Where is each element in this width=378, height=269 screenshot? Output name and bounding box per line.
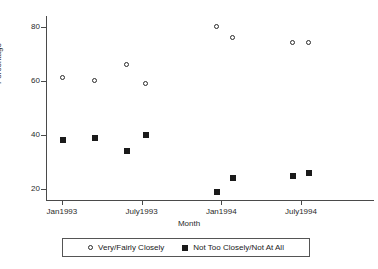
x-tick [62, 200, 63, 205]
data-point [124, 148, 130, 154]
y-tick-label: 20 [0, 185, 40, 193]
open-circle-icon [88, 245, 93, 250]
data-point [124, 62, 129, 67]
data-point [60, 75, 65, 80]
filled-square-icon [182, 245, 188, 251]
data-point [230, 175, 236, 181]
data-point [290, 40, 295, 45]
chart-legend: Very/Fairly Closely Not Too Closely/Not … [62, 238, 310, 257]
legend-label: Not Too Closely/Not At All [193, 243, 284, 252]
y-tick-label: 80 [0, 23, 40, 31]
data-point [214, 189, 220, 195]
data-point [92, 135, 98, 141]
legend-item-not-too-closely[interactable]: Not Too Closely/Not At All [182, 243, 284, 252]
plot-area [46, 16, 374, 200]
data-point [230, 35, 235, 40]
x-axis-title: Month [0, 219, 378, 228]
x-tick-label: Jan1993 [27, 207, 97, 216]
data-point [214, 24, 219, 29]
x-tick [301, 200, 302, 205]
y-tick-label: 40 [0, 131, 40, 139]
data-point [92, 78, 97, 83]
y-tick-label: 60 [0, 77, 40, 85]
x-tick [142, 200, 143, 205]
data-point [143, 132, 149, 138]
data-point [306, 170, 312, 176]
x-tick-label: July1994 [266, 207, 336, 216]
x-tick-label: July1993 [107, 207, 177, 216]
data-point [143, 81, 148, 86]
x-axis-line [46, 200, 374, 201]
data-point [290, 173, 296, 179]
legend-label: Very/Fairly Closely [98, 243, 164, 252]
legend-item-very-fairly-closely[interactable]: Very/Fairly Closely [88, 243, 164, 252]
data-point [306, 40, 311, 45]
data-point [60, 137, 66, 143]
x-tick-label: Jan1994 [186, 207, 256, 216]
x-tick [221, 200, 222, 205]
scatter-chart: Percentage 20406080 Jan1993July1993Jan19… [0, 0, 378, 269]
